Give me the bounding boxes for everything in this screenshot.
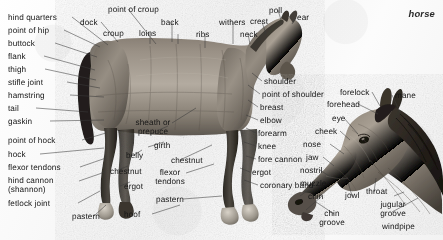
label-buttock: buttock xyxy=(8,39,35,48)
label-nose: nose xyxy=(303,140,321,149)
label-shoulder: shoulder xyxy=(264,77,296,86)
label-back: back xyxy=(161,18,179,27)
label-belly: belly xyxy=(126,151,143,160)
label-gaskin: gaskin xyxy=(8,117,32,126)
label-layer: hind quarters point of hip buttock flank… xyxy=(0,0,443,240)
label-hind-quarters: hind quarters xyxy=(8,13,57,22)
label-point-of-shoulder: point of shoulder xyxy=(262,90,324,99)
label-muzzle: muzzle xyxy=(300,179,326,188)
label-tail: tail xyxy=(8,104,19,113)
label-flexor-tendons-fore: flexor tendons xyxy=(148,168,192,187)
label-hock: hock xyxy=(8,150,26,159)
label-elbow: elbow xyxy=(260,116,282,125)
label-cheek: cheek xyxy=(315,127,337,136)
label-flank: flank xyxy=(8,52,26,61)
label-neck: neck xyxy=(240,30,258,39)
label-chin-groove: chin groove xyxy=(314,209,350,228)
label-croup: croup xyxy=(103,29,124,38)
label-ergot-hind: ergot xyxy=(124,182,143,191)
label-windpipe: windpipe xyxy=(382,222,415,231)
label-poll: poll xyxy=(269,6,282,15)
label-breast: breast xyxy=(260,103,283,112)
label-forelock: forelock xyxy=(340,88,369,97)
label-jowl: jowl xyxy=(345,191,359,200)
label-thigh: thigh xyxy=(8,65,26,74)
label-stifle-joint: stifle joint xyxy=(8,78,43,87)
label-throat: throat xyxy=(366,187,387,196)
label-eye: eye xyxy=(332,114,345,123)
label-point-of-croup: point of croup xyxy=(108,5,159,14)
label-girth: girth xyxy=(154,141,170,150)
label-ear: ear xyxy=(297,13,309,22)
label-crest: crest xyxy=(250,17,268,26)
label-hind-cannon: hind cannon (shannon) xyxy=(8,176,54,195)
label-withers: withers xyxy=(219,18,246,27)
label-pastern-fore: pastern xyxy=(156,195,184,204)
label-chestnut-fore: chestnut xyxy=(171,156,203,165)
label-mane: mane xyxy=(395,91,416,100)
label-point-of-hock: point of hock xyxy=(8,136,56,145)
label-fore-cannon: fore cannon xyxy=(258,155,302,164)
label-fetlock-joint: fetlock joint xyxy=(8,199,50,208)
label-forearm: forearm xyxy=(258,129,287,138)
label-jugular-groove: jugular groove xyxy=(370,200,416,219)
label-loins: loins xyxy=(139,29,156,38)
label-sheath-or-prepuce: sheath or prepuce xyxy=(128,118,178,137)
label-ribs: ribs xyxy=(196,30,210,39)
label-nostril: nostril xyxy=(300,166,322,175)
label-ergot-fore: ergot xyxy=(252,168,271,177)
label-dock: dock xyxy=(80,18,98,27)
label-forehead: forehead xyxy=(327,100,360,109)
label-chestnut-hind: chestnut xyxy=(110,167,142,176)
label-hamstring: hamstring xyxy=(8,91,45,100)
label-pastern-hind: pastern xyxy=(72,212,100,221)
label-jaw: jaw xyxy=(306,153,319,162)
figure-title: horse xyxy=(409,8,435,19)
horse-anatomy-figure: hind quarters point of hip buttock flank… xyxy=(0,0,443,240)
label-point-of-hip: point of hip xyxy=(8,26,49,35)
label-knee: knee xyxy=(258,142,276,151)
label-hoof: hoof xyxy=(124,210,140,219)
label-flexor-tendons-hind: flexor tendons xyxy=(8,163,61,172)
label-chin: chin xyxy=(308,192,323,201)
